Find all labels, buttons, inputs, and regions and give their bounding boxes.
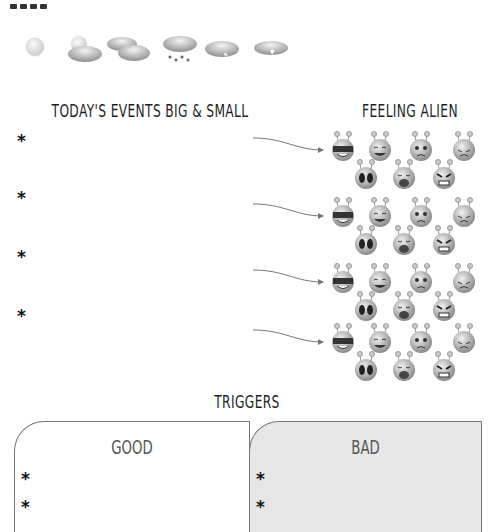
good-bullet-1: *	[21, 471, 30, 488]
feeling-alien-grids	[328, 126, 493, 396]
emotion-row-3	[332, 264, 475, 322]
good-title: GOOD	[50, 436, 214, 458]
arrow-icon	[253, 138, 323, 150]
alien-worried-icon[interactable]	[410, 132, 432, 162]
arrow-icon	[253, 330, 323, 342]
bad-bullet-2: *	[256, 499, 265, 516]
rain-icon[interactable]	[163, 36, 197, 62]
bad-title: BAD	[285, 436, 447, 458]
event-bullet-1: *	[17, 133, 26, 150]
thunder-cloud-icon[interactable]	[254, 41, 288, 55]
event-bullet-3: *	[17, 249, 26, 266]
event-bullet-2: *	[17, 190, 26, 207]
triggers-title: TRIGGERS	[175, 392, 319, 412]
arrow-icon	[253, 270, 323, 282]
weather-icons-row	[18, 30, 298, 70]
arrow-icon	[253, 204, 323, 216]
cloudy-icon[interactable]	[107, 37, 150, 61]
event-bullet-4: *	[17, 308, 26, 325]
alien-sad-icon[interactable]	[453, 132, 475, 162]
feelings-title: FEELING ALIEN	[352, 101, 467, 121]
snow-cloud-icon[interactable]	[205, 41, 239, 57]
bad-bullet-1: *	[256, 471, 265, 488]
bad-triggers-box[interactable]: BAD * *	[249, 421, 482, 532]
emotion-row-1	[332, 132, 475, 190]
emotion-row-2	[332, 198, 475, 256]
alien-laughing-icon[interactable]	[369, 132, 391, 162]
alien-cool-icon[interactable]	[332, 132, 354, 162]
emotion-row-4	[332, 324, 475, 382]
partly-cloudy-icon[interactable]	[68, 36, 102, 62]
good-triggers-box[interactable]: GOOD * *	[14, 421, 250, 532]
good-bullet-2: *	[21, 499, 30, 516]
alien-crying-icon[interactable]	[393, 160, 415, 190]
alien-scared-icon[interactable]	[355, 160, 377, 190]
date-label-cropped	[10, 0, 54, 4]
sun-icon[interactable]	[26, 38, 44, 56]
events-title: TODAY'S EVENTS BIG & SMALL	[42, 101, 258, 121]
alien-angry-icon[interactable]	[433, 160, 455, 190]
